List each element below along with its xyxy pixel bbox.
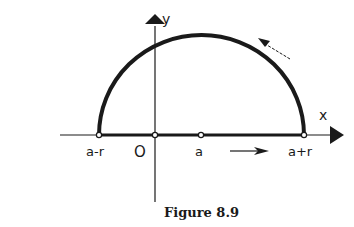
point-marker-a-minus-r	[96, 132, 101, 137]
label-a-plus-r: a+r	[288, 145, 312, 158]
label-a-minus-r: a-r	[86, 145, 104, 158]
x-axis-arrowhead-icon	[330, 126, 344, 144]
figure-caption: Figure 8.9	[164, 205, 239, 220]
semicircle-arc	[99, 35, 304, 135]
arc-direction-arrowhead-icon	[258, 38, 270, 47]
y-axis-label: y	[162, 12, 170, 26]
label-origin: O	[134, 145, 146, 160]
point-marker-a-plus-r	[301, 132, 306, 137]
contour-diagram	[0, 0, 354, 227]
label-a: a	[195, 145, 203, 158]
point-marker-origin	[152, 132, 157, 137]
x-axis-label: x	[319, 108, 327, 122]
point-marker-a	[198, 132, 203, 137]
